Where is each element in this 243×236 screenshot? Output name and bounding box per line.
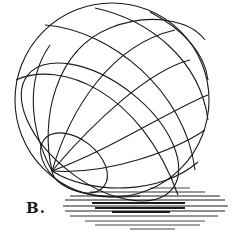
- latitude-arc-4: [45, 25, 195, 170]
- meridian-3: [52, 60, 190, 171]
- meridian-8: [52, 171, 140, 197]
- sphere-wireframe: [0, 3, 209, 228]
- latitude-arc-3: [16, 74, 178, 195]
- figure-label: B.: [26, 199, 46, 217]
- meridian-4: [52, 95, 208, 171]
- latitude-arc-6: [150, 12, 208, 80]
